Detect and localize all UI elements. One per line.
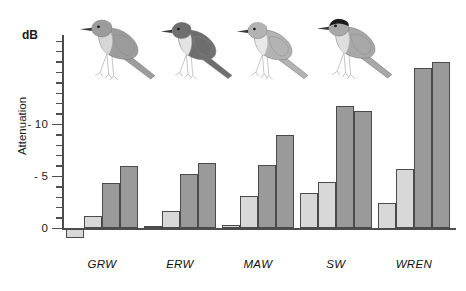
y-tick-minor-13 bbox=[56, 93, 62, 94]
bird-illustration-great-reed-warbler bbox=[74, 10, 160, 90]
bird-illustration-marsh-warbler bbox=[232, 12, 312, 90]
group-label-erw: ERW bbox=[140, 258, 220, 270]
y-tick-minor-6 bbox=[56, 165, 62, 166]
bar-maw-dark-bar-2 bbox=[276, 135, 294, 229]
bar-wren-light-bar-2 bbox=[396, 169, 414, 228]
y-tick-major-0 bbox=[52, 228, 62, 229]
bar-sw-light-bar-2 bbox=[318, 182, 336, 229]
y-tick-major-10 bbox=[52, 124, 62, 125]
bar-sw-dark-bar-1 bbox=[336, 106, 354, 229]
y-tick-minor-16 bbox=[56, 61, 62, 62]
y-axis-line bbox=[62, 35, 64, 229]
y-tick-minor-12 bbox=[56, 103, 62, 104]
y-tick-label-0: 0 bbox=[6, 222, 48, 234]
y-tick-minor-9 bbox=[56, 134, 62, 135]
bar-erw-light-bar-1 bbox=[144, 226, 162, 228]
group-label-wren: WREN bbox=[374, 258, 454, 270]
bar-wren-dark-bar-1 bbox=[414, 68, 432, 228]
y-tick-minor-18 bbox=[56, 41, 62, 42]
y-tick-minor-1 bbox=[56, 217, 62, 218]
bar-erw-dark-bar-2 bbox=[198, 163, 216, 229]
bar-sw-light-bar-1 bbox=[300, 193, 318, 228]
y-tick-label-10: - 10 bbox=[6, 118, 48, 130]
y-tick-minor-2 bbox=[56, 207, 62, 208]
bar-wren-dark-bar-2 bbox=[432, 62, 450, 228]
group-label-maw: MAW bbox=[218, 258, 298, 270]
y-tick-minor-14 bbox=[56, 82, 62, 83]
attenuation-bar-chart: dB Attenuation 0- 5- 10 GRWERWMAWSWWREN bbox=[0, 0, 466, 291]
y-tick-minor-3 bbox=[56, 197, 62, 198]
y-tick-minor-8 bbox=[56, 145, 62, 146]
bar-grw-light-bar-2 bbox=[84, 216, 102, 228]
bar-grw-light-bar-1 bbox=[66, 229, 84, 238]
bird-illustration-sedge-warbler-blackcap bbox=[312, 8, 396, 90]
bar-wren-light-bar-1 bbox=[378, 203, 396, 229]
bar-erw-dark-bar-1 bbox=[180, 174, 198, 228]
y-tick-label-5: - 5 bbox=[6, 170, 48, 182]
y-tick-minor-15 bbox=[56, 72, 62, 73]
bar-erw-light-bar-2 bbox=[162, 211, 180, 229]
y-tick-minor-17 bbox=[56, 51, 62, 52]
bar-maw-light-bar-2 bbox=[240, 196, 258, 228]
y-tick-minor-7 bbox=[56, 155, 62, 156]
y-axis-unit-label: dB bbox=[22, 28, 38, 42]
group-label-sw: SW bbox=[296, 258, 376, 270]
y-tick-minor-11 bbox=[56, 113, 62, 114]
bar-maw-dark-bar-1 bbox=[258, 165, 276, 228]
y-tick-major-5 bbox=[52, 176, 62, 177]
bird-illustration-european-reed-warbler bbox=[156, 12, 236, 90]
bar-sw-dark-bar-2 bbox=[354, 111, 372, 229]
bar-grw-dark-bar-1 bbox=[102, 183, 120, 229]
bar-maw-light-bar-1 bbox=[222, 225, 240, 228]
group-label-grw: GRW bbox=[62, 258, 142, 270]
bar-grw-dark-bar-2 bbox=[120, 166, 138, 228]
y-tick-minor-4 bbox=[56, 186, 62, 187]
